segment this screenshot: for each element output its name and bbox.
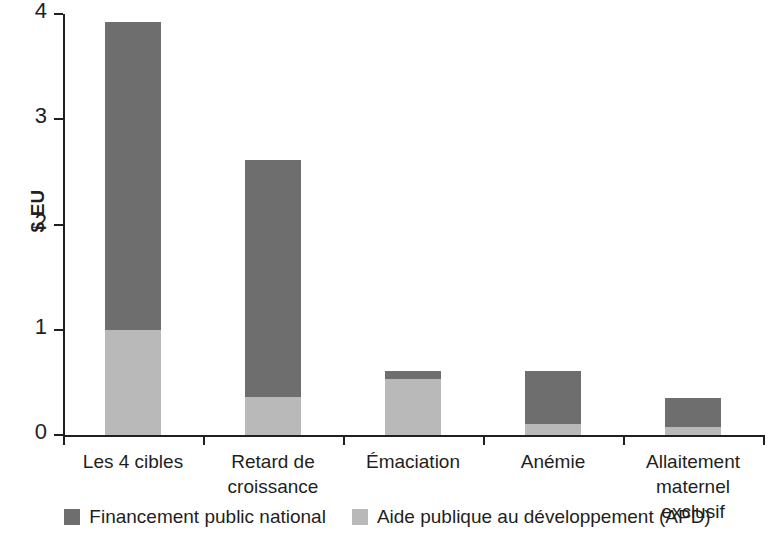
bar-segment-oda[interactable] xyxy=(665,427,721,435)
bar-segment-oda[interactable] xyxy=(385,379,441,435)
legend-label: Aide publique au développement (APD) xyxy=(377,506,711,527)
bar-group xyxy=(63,14,203,435)
y-axis-tick-label: 3 xyxy=(35,105,47,127)
x-axis-tick xyxy=(63,435,65,445)
x-axis-tick xyxy=(343,435,345,445)
legend-swatch-icon xyxy=(352,509,368,525)
bar-segment-public-funding[interactable] xyxy=(105,22,161,329)
chart-legend: Financement public nationalAide publique… xyxy=(0,506,775,527)
x-axis-category-label: Retard de croissance xyxy=(203,449,343,499)
y-axis-tick-label: 0 xyxy=(35,421,47,443)
y-axis-tick-label: 4 xyxy=(35,0,47,22)
x-axis-tick xyxy=(483,435,485,445)
x-axis-line xyxy=(63,435,763,437)
bar-segment-oda[interactable] xyxy=(525,424,581,435)
legend-swatch-icon xyxy=(64,509,80,525)
y-axis-tick-label: 1 xyxy=(35,316,47,338)
x-axis-tick xyxy=(623,435,625,445)
plot-area: 01234 xyxy=(63,14,763,435)
x-axis-category-label: Anémie xyxy=(483,449,623,474)
bar-stack[interactable] xyxy=(385,371,441,435)
bar-group xyxy=(343,14,483,435)
bar-group xyxy=(203,14,343,435)
bar-stack[interactable] xyxy=(525,371,581,435)
legend-item[interactable]: Aide publique au développement (APD) xyxy=(352,506,711,527)
y-axis-tick: 3 xyxy=(54,118,63,120)
y-axis-tick: 1 xyxy=(54,329,63,331)
legend-item[interactable]: Financement public national xyxy=(64,506,326,527)
y-axis-tick: 0 xyxy=(54,434,63,436)
bar-stack[interactable] xyxy=(105,22,161,435)
x-axis-tick xyxy=(763,435,765,445)
bar-segment-public-funding[interactable] xyxy=(665,398,721,426)
bar-group xyxy=(483,14,623,435)
x-axis-category-label: Les 4 cibles xyxy=(63,449,203,474)
bar-stack[interactable] xyxy=(665,398,721,435)
bar-segment-public-funding[interactable] xyxy=(385,371,441,379)
x-axis-category-label: Émaciation xyxy=(343,449,483,474)
stacked-bar-chart: $ EU 01234 Les 4 ciblesRetard de croissa… xyxy=(0,0,775,541)
bar-group xyxy=(623,14,763,435)
bar-segment-public-funding[interactable] xyxy=(245,160,301,397)
bar-segment-oda[interactable] xyxy=(245,397,301,435)
bar-segment-public-funding[interactable] xyxy=(525,371,581,425)
y-axis-tick-label: 2 xyxy=(35,211,47,233)
legend-label: Financement public national xyxy=(89,506,326,527)
bar-segment-oda[interactable] xyxy=(105,330,161,435)
y-axis-tick: 2 xyxy=(54,224,63,226)
x-axis-tick xyxy=(203,435,205,445)
y-axis-tick: 4 xyxy=(54,13,63,15)
bar-stack[interactable] xyxy=(245,160,301,435)
